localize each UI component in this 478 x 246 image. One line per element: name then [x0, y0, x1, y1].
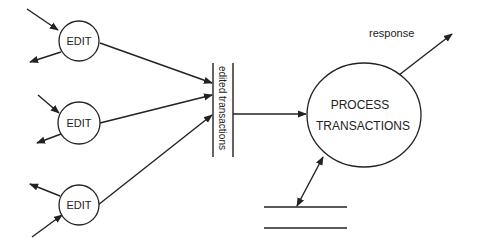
data-store-bottom[interactable]	[264, 207, 347, 228]
flow-in-edit2	[38, 95, 59, 113]
flow-response	[399, 34, 452, 75]
data-store-edited-transactions[interactable]: edited transactions	[213, 63, 233, 157]
flow-out-edit3	[30, 184, 60, 196]
process-edit-1[interactable]: EDIT	[59, 21, 99, 61]
flow-out-edit2	[37, 134, 61, 143]
edit-1-label: EDIT	[66, 35, 91, 47]
process-transactions[interactable]: PROCESS TRANSACTIONS	[307, 63, 421, 167]
process-edit-2[interactable]: EDIT	[58, 102, 100, 144]
flow-process-bottom-store	[297, 157, 323, 206]
response-label: response	[369, 27, 414, 39]
edited-transactions-label: edited transactions	[217, 66, 228, 150]
process-label-line1: PROCESS	[331, 98, 390, 112]
process-label-line2: TRANSACTIONS	[316, 119, 410, 133]
flow-out-edit1	[30, 52, 61, 62]
edit-3-label: EDIT	[66, 199, 91, 211]
flow-in-edit1	[27, 9, 58, 30]
data-flow-diagram: EDIT EDIT EDIT edited transactions PROCE…	[0, 0, 478, 246]
process-edit-3[interactable]: EDIT	[59, 185, 99, 225]
flow-edit1-to-store	[100, 43, 212, 83]
flow-in-edit3	[32, 215, 62, 237]
flow-edit3-to-store	[98, 115, 212, 205]
edit-2-label: EDIT	[66, 117, 91, 129]
flow-edit2-to-store	[100, 95, 212, 123]
